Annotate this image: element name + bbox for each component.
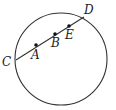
circle <box>15 13 107 105</box>
label-d: D <box>83 3 94 17</box>
label-c: C <box>2 55 11 69</box>
point-a-dot <box>34 43 38 47</box>
label-a: A <box>30 48 40 62</box>
label-b: B <box>50 36 60 50</box>
label-e: E <box>64 28 74 42</box>
circle-chord-diagram: C A B E D <box>0 0 116 110</box>
chord-cd <box>16 17 84 60</box>
